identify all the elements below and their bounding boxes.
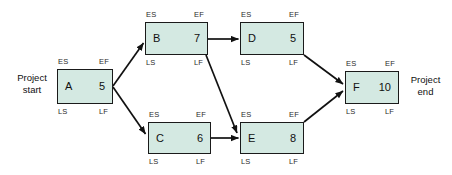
node-d-duration: 5 <box>290 33 296 44</box>
node-e-lf-label: LF <box>289 158 298 166</box>
node-a-ef-label: EF <box>99 58 109 66</box>
node-f-id: F <box>353 82 360 93</box>
project-start-label: Project start <box>8 72 56 96</box>
project-start-line2: start <box>8 84 56 96</box>
node-e[interactable]: E 8 <box>240 122 304 154</box>
edge-a-to-b <box>113 43 144 86</box>
edge-e-to-f <box>304 91 343 122</box>
node-b-id: B <box>153 33 160 44</box>
node-c-ef-label: EF <box>196 111 206 119</box>
node-d-es-label: ES <box>241 11 251 19</box>
node-b-duration: 7 <box>194 33 200 44</box>
node-b-lf-label: LF <box>194 59 203 67</box>
project-end-label: Project end <box>403 74 448 98</box>
node-f-ls-label: LS <box>346 108 356 116</box>
node-a-es-label: ES <box>58 58 68 66</box>
node-a-duration: 5 <box>99 81 105 92</box>
node-d-lf-label: LF <box>289 59 298 67</box>
node-c-es-label: ES <box>149 111 159 119</box>
node-c-ls-label: LS <box>149 158 159 166</box>
project-start-line1: Project <box>8 72 56 84</box>
node-c-duration: 6 <box>197 133 203 144</box>
node-a-lf-label: LF <box>99 108 108 116</box>
node-a[interactable]: A 5 <box>57 69 113 104</box>
node-b-es-label: ES <box>146 11 156 19</box>
node-e-es-label: ES <box>241 111 251 119</box>
node-d-id: D <box>248 33 256 44</box>
project-network-diagram: Project start ES EF A 5 LS LF ES EF B 7 … <box>0 0 452 175</box>
node-e-ef-label: EF <box>289 111 299 119</box>
node-f-ef-label: EF <box>385 60 395 68</box>
node-e-id: E <box>248 133 255 144</box>
node-c-lf-label: LF <box>196 158 205 166</box>
node-e-ls-label: LS <box>241 158 251 166</box>
node-c-id: C <box>156 133 164 144</box>
project-end-line2: end <box>403 86 448 98</box>
node-f-es-label: ES <box>346 60 356 68</box>
node-f-lf-label: LF <box>385 108 394 116</box>
node-a-id: A <box>65 81 72 92</box>
node-f[interactable]: F 10 <box>345 71 399 104</box>
node-d-ls-label: LS <box>241 59 251 67</box>
node-c[interactable]: C 6 <box>148 122 211 154</box>
node-b-ls-label: LS <box>146 59 156 67</box>
node-f-duration: 10 <box>379 82 391 93</box>
node-a-ls-label: LS <box>58 108 68 116</box>
node-d-ef-label: EF <box>289 11 299 19</box>
edge-d-to-f <box>304 55 343 84</box>
node-b-ef-label: EF <box>194 11 204 19</box>
node-e-duration: 8 <box>290 133 296 144</box>
edge-a-to-c <box>113 87 146 134</box>
node-d[interactable]: D 5 <box>240 22 304 55</box>
node-b[interactable]: B 7 <box>145 22 208 55</box>
project-end-line1: Project <box>403 74 448 86</box>
